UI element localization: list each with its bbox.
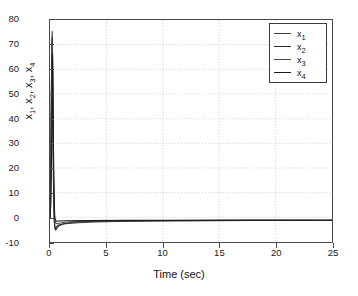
legend-item-x4[interactable]: x4 xyxy=(274,66,323,79)
legend-swatch-icon xyxy=(274,72,291,73)
y-tick-mark xyxy=(49,143,54,144)
legend-label-subscript: 4 xyxy=(302,71,306,80)
y-tick-label: 70 xyxy=(0,39,19,49)
y-label-subscript: 4 xyxy=(28,62,37,66)
y-label-base: x xyxy=(22,98,34,104)
y-label-base: x xyxy=(22,114,34,120)
chart-figure: -1001020304050607080 0510152025 Time (se… xyxy=(0,0,358,296)
y-label-base: x xyxy=(22,82,34,88)
x-tick-label: 0 xyxy=(34,247,64,258)
y-tick-label: 0 xyxy=(0,213,19,223)
legend-label: x1 xyxy=(297,29,306,39)
legend-label-subscript: 2 xyxy=(302,45,306,54)
y-tick-label: 40 xyxy=(0,114,19,124)
x-tick-label: 15 xyxy=(204,247,234,258)
x-tick-label: 10 xyxy=(148,247,178,258)
x-tick-mark xyxy=(276,243,277,248)
legend-swatch-icon xyxy=(274,33,291,34)
y-tick-mark xyxy=(49,218,54,219)
y-label-subscript: 3 xyxy=(28,78,37,82)
y-tick-mark xyxy=(49,69,54,70)
legend-label-subscript: 3 xyxy=(302,58,306,67)
y-label-separator: , xyxy=(22,104,34,110)
x-tick-mark xyxy=(219,243,220,248)
y-tick-mark xyxy=(49,119,54,120)
chart-legend: x1x2x3x4 xyxy=(269,23,327,83)
y-tick-label: 10 xyxy=(0,188,19,198)
y-tick-label: 30 xyxy=(0,138,19,148)
y-label-separator: , xyxy=(22,88,34,94)
y-tick-mark xyxy=(49,19,54,20)
legend-swatch-icon xyxy=(274,46,291,47)
x-tick-label: 25 xyxy=(318,247,348,258)
x-axis-label: Time (sec) xyxy=(0,268,358,280)
x-tick-mark xyxy=(49,243,50,248)
legend-label-subscript: 1 xyxy=(302,32,306,41)
legend-swatch-icon xyxy=(274,59,291,60)
y-tick-label: 20 xyxy=(0,163,19,173)
legend-label: x4 xyxy=(297,68,306,78)
y-label-separator: , xyxy=(22,72,34,78)
x-tick-mark xyxy=(333,243,334,248)
y-label-subscript: 2 xyxy=(28,94,37,98)
y-tick-mark xyxy=(49,94,54,95)
legend-label: x3 xyxy=(297,55,306,65)
y-label-base: x xyxy=(22,67,34,73)
y-axis-label: x1, x2, x3, x4 xyxy=(22,11,34,171)
x-tick-label: 5 xyxy=(91,247,121,258)
y-tick-label: 50 xyxy=(0,89,19,99)
legend-label: x2 xyxy=(297,42,306,52)
y-tick-mark xyxy=(49,193,54,194)
y-label-subscript: 1 xyxy=(28,110,37,114)
legend-item-x1[interactable]: x1 xyxy=(274,27,323,40)
legend-item-x2[interactable]: x2 xyxy=(274,40,323,53)
y-tick-label: 80 xyxy=(0,14,19,24)
y-tick-mark xyxy=(49,44,54,45)
y-tick-label: 60 xyxy=(0,64,19,74)
y-tick-mark xyxy=(49,168,54,169)
legend-item-x3[interactable]: x3 xyxy=(274,53,323,66)
x-tick-label: 20 xyxy=(261,247,291,258)
y-tick-label: -10 xyxy=(0,238,19,248)
x-tick-mark xyxy=(106,243,107,248)
x-tick-mark xyxy=(163,243,164,248)
